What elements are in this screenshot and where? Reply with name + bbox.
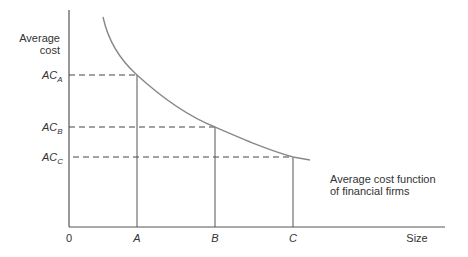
y-tick-ac-b: ACB <box>41 121 63 136</box>
y-tick-ac-c: ACC <box>41 151 63 166</box>
curve-annotation-line1: Average cost function <box>330 173 436 185</box>
x-axis-label: Size <box>406 232 427 244</box>
curve-annotation-line2: of financial firms <box>330 185 410 197</box>
y-axis-label-line1: Average <box>19 32 60 44</box>
x-tick-c: C <box>289 232 297 244</box>
y-axis-label-line2: cost <box>40 44 60 56</box>
origin-label: 0 <box>66 232 72 244</box>
y-tick-ac-a: ACA <box>41 69 63 84</box>
x-tick-b: B <box>211 232 218 244</box>
average-cost-chart: Average cost ACA ACB ACC 0 A B C Size Av… <box>0 0 468 257</box>
average-cost-curve <box>103 17 310 160</box>
x-tick-a: A <box>132 232 140 244</box>
